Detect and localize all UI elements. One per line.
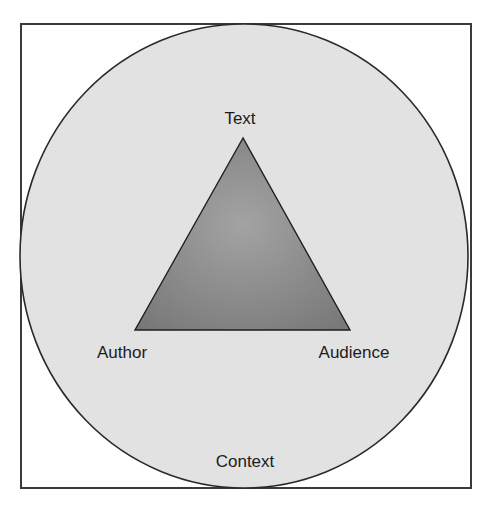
label-text: Text (224, 110, 255, 127)
label-author: Author (97, 344, 147, 361)
label-context: Context (216, 453, 275, 470)
rhetorical-diagram (0, 0, 489, 507)
label-audience: Audience (319, 344, 390, 361)
